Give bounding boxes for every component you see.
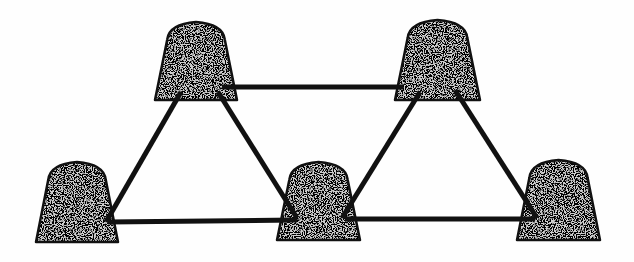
edge-n2-n4 xyxy=(342,92,420,218)
node-shape xyxy=(395,20,480,100)
node-top-right xyxy=(395,20,480,100)
node-bottom-middle xyxy=(277,162,360,240)
edge-n2-n5 xyxy=(455,90,537,218)
edge-n1-n4 xyxy=(218,92,297,218)
network-diagram xyxy=(0,0,634,262)
nodes-layer xyxy=(36,20,600,242)
edge-n3-n4 xyxy=(108,220,297,222)
edge-n1-n3 xyxy=(106,92,181,222)
node-bottom-left xyxy=(36,162,118,242)
node-shape xyxy=(36,162,118,242)
node-bottom-right xyxy=(517,160,600,240)
node-shape xyxy=(517,160,600,240)
diagram-canvas xyxy=(0,0,634,262)
node-shape xyxy=(277,162,360,240)
